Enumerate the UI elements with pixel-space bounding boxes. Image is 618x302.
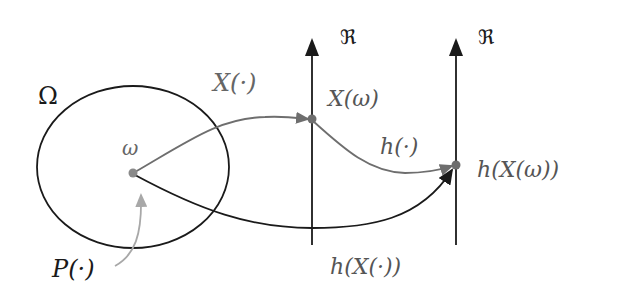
X-omega-point <box>308 115 317 124</box>
sample-space-ellipse <box>37 86 229 248</box>
axis-2-arrowhead-icon <box>449 38 463 56</box>
measure-P-label: P(·) <box>51 255 95 283</box>
sample-space-label: Ω <box>38 82 58 110</box>
hX-omega-point <box>452 161 461 170</box>
axis-1-arrowhead-icon <box>305 38 319 56</box>
mapping-X-curve <box>135 117 308 172</box>
real-axis-2 <box>449 38 463 245</box>
mapping-hX-curve <box>135 170 452 228</box>
measure-P-arrow <box>115 195 141 266</box>
real-axis-1 <box>305 38 319 245</box>
diagram-svg: Ω ω P(·) X(·) ℜ ℜ X(ω) h(·) h(X(ω)) h(X(… <box>0 0 618 302</box>
X-omega-label: X(ω) <box>326 86 379 111</box>
omega-label: ω <box>122 136 138 160</box>
hX-omega-label: h(X(ω)) <box>477 157 559 182</box>
mapping-hX-label: h(X(·)) <box>330 254 401 279</box>
diagram-canvas: Ω ω P(·) X(·) ℜ ℜ X(ω) h(·) h(X(ω)) h(X(… <box>0 0 618 302</box>
omega-point <box>129 169 138 178</box>
mapping-h-label: h(·) <box>380 134 418 159</box>
mapping-X-label: X(·) <box>211 69 256 97</box>
axis-1-label: ℜ <box>340 25 357 49</box>
axis-2-label: ℜ <box>478 25 495 49</box>
